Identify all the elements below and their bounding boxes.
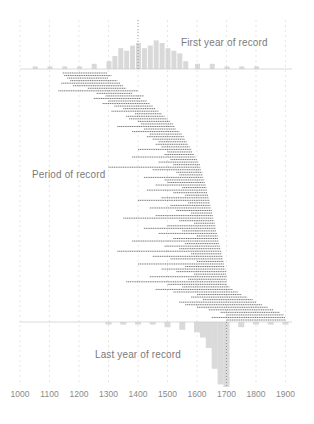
histogram-bar xyxy=(238,322,244,327)
x-tick-label: 1800 xyxy=(247,389,266,399)
histogram-bar xyxy=(239,66,244,69)
histogram-bar xyxy=(135,322,141,325)
histogram-bar xyxy=(179,322,185,330)
histogram-bar xyxy=(194,322,200,332)
histogram-bar xyxy=(130,46,135,69)
histogram-bar xyxy=(254,66,259,69)
histogram-bar xyxy=(218,322,224,384)
histogram-bar xyxy=(62,66,67,69)
histogram-bar xyxy=(212,322,218,369)
histogram-bar xyxy=(77,66,82,69)
gridlines xyxy=(20,20,286,385)
histogram-bar xyxy=(200,322,206,338)
histogram-bar xyxy=(225,66,230,69)
histogram-bar xyxy=(206,322,212,348)
histogram-bar xyxy=(150,322,156,325)
histogram-bar xyxy=(177,53,182,69)
chart-canvas xyxy=(0,0,314,424)
histogram-bar xyxy=(183,61,188,69)
x-tick-label: 1700 xyxy=(217,389,236,399)
histogram-bar xyxy=(171,51,176,69)
histogram-bar xyxy=(148,46,153,69)
histogram-bar xyxy=(120,322,126,325)
histogram-bar xyxy=(210,64,215,69)
period-of-record-chart: First year of record Period of record La… xyxy=(0,0,314,424)
x-tick-label: 1300 xyxy=(99,389,118,399)
x-tick-label: 1200 xyxy=(70,389,89,399)
histogram-bar xyxy=(268,322,274,325)
histogram-bar xyxy=(160,43,165,69)
period-bars xyxy=(58,73,285,320)
histogram-bar xyxy=(253,322,259,325)
x-tick-label: 1100 xyxy=(40,389,58,399)
period-label: Period of record xyxy=(32,168,105,180)
x-tick-label: 1600 xyxy=(188,389,207,399)
histogram-bar xyxy=(92,64,97,69)
histogram-bar xyxy=(107,61,112,69)
x-tick-label: 1500 xyxy=(158,389,177,399)
x-tick-label: 1400 xyxy=(129,389,148,399)
histogram-bar xyxy=(33,66,38,69)
histogram-bar xyxy=(136,43,141,69)
x-tick-label: 1900 xyxy=(276,389,295,399)
histogram-bar xyxy=(283,322,289,325)
histogram-bar xyxy=(106,322,112,325)
histogram-bar xyxy=(165,322,171,327)
x-tick-label: 1000 xyxy=(11,389,30,399)
last-year-label: Last year of record xyxy=(95,348,181,360)
histogram-bar xyxy=(195,64,200,69)
histogram-bar xyxy=(112,56,117,69)
histogram-bar xyxy=(142,48,147,69)
histogram-bar xyxy=(154,40,159,69)
first-year-label: First year of record xyxy=(181,36,268,48)
histogram-bar xyxy=(124,51,129,69)
histogram-bar xyxy=(48,66,53,69)
histogram-bar xyxy=(166,48,171,69)
histogram-bar xyxy=(118,48,123,69)
